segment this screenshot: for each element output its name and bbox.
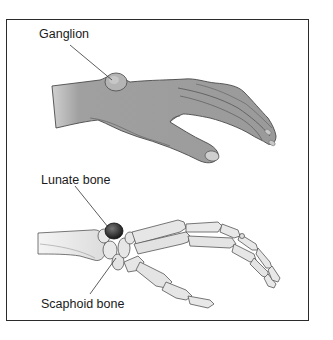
scaphoid-bone-label: Scaphoid bone	[41, 297, 124, 311]
ganglion-label: Ganglion	[39, 27, 89, 41]
lunate-bone-label: Lunate bone	[41, 173, 111, 187]
external-hand	[52, 45, 276, 163]
ganglion-leader-line	[70, 45, 112, 80]
hand-illustration	[0, 0, 333, 340]
scaphoid-leader-line	[90, 258, 116, 294]
lunate-bone	[105, 223, 123, 239]
skeletal-hand	[38, 186, 280, 308]
lunate-leader-line	[75, 186, 108, 227]
